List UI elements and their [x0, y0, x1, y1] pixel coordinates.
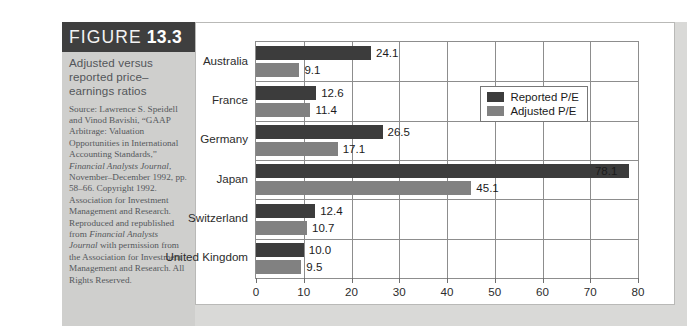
x-axis-tick-label: 0	[253, 285, 259, 298]
bar	[256, 164, 629, 178]
category-label: Germany	[200, 132, 256, 145]
x-gridline	[399, 42, 400, 278]
x-axis-tick	[352, 278, 353, 283]
x-axis-tick	[399, 278, 400, 283]
bar	[256, 243, 304, 257]
bar-value-label: 9.1	[304, 64, 320, 76]
x-gridline	[304, 42, 305, 278]
source-text-part-2: , November–December 1992, pp. 58–66. Cop…	[69, 161, 187, 239]
figure-title: Adjusted versus reported price–earnings …	[69, 56, 187, 99]
legend-swatch-icon	[487, 92, 504, 102]
bar-value-label: 24.1	[376, 47, 398, 59]
bar	[256, 181, 471, 195]
x-axis-tick	[543, 278, 544, 283]
legend-label: Adjusted P/E	[510, 105, 576, 117]
category-label: United Kingdom	[166, 250, 257, 263]
source-journal-1: Financial Analysts Journal	[69, 161, 169, 171]
x-axis-tick	[590, 278, 591, 283]
x-axis-tick-label: 60	[536, 285, 549, 298]
figure-caption-column: Adjusted versus reported price–earnings …	[62, 52, 195, 326]
category-label: France	[212, 93, 256, 106]
x-axis-tick-label: 80	[632, 285, 645, 298]
category-label: Japan	[216, 172, 256, 185]
bar-value-label: 9.5	[306, 261, 322, 273]
chart-legend: Reported P/EAdjusted P/E	[480, 86, 587, 122]
plot-inner: 01020304050607080Australia24.19.1France1…	[256, 42, 638, 278]
source-text-part-1: Source: Lawrence S. Speidell and Vinod B…	[69, 104, 178, 160]
figure-number-header: FIGURE 13.3	[62, 22, 195, 52]
x-axis-tick	[447, 278, 448, 283]
bar-value-label: 12.4	[320, 205, 342, 217]
bar-value-label: 10.0	[309, 244, 331, 256]
bar-value-label: 45.1	[476, 182, 498, 194]
bar	[256, 125, 383, 139]
x-gridline	[543, 42, 544, 278]
bar	[256, 46, 371, 60]
page-top-margin	[0, 0, 687, 22]
bar	[256, 86, 316, 100]
legend-label: Reported P/E	[510, 91, 578, 103]
bar	[256, 204, 315, 218]
bar	[256, 260, 301, 274]
x-axis-tick-label: 70	[584, 285, 597, 298]
x-axis-tick-label: 30	[393, 285, 406, 298]
x-gridline	[495, 42, 496, 278]
plot-area: 01020304050607080Australia24.19.1France1…	[255, 41, 639, 279]
x-axis-tick-label: 50	[488, 285, 501, 298]
x-axis-tick	[256, 278, 257, 283]
bar-value-label: 12.6	[321, 87, 343, 99]
x-axis-tick	[304, 278, 305, 283]
chart-panel: 01020304050607080Australia24.19.1France1…	[195, 22, 675, 305]
bar	[256, 63, 299, 77]
x-axis-tick	[638, 278, 639, 283]
bar	[256, 221, 307, 235]
x-axis-tick-label: 20	[345, 285, 358, 298]
bar-value-label: 11.4	[315, 104, 337, 116]
x-gridline	[352, 42, 353, 278]
figure-page: FIGURE 13.3 Adjusted versus reported pri…	[0, 0, 687, 326]
figure-number: 13.3	[142, 27, 182, 48]
bar	[256, 103, 310, 117]
bar-value-label: 10.7	[312, 222, 334, 234]
x-axis-tick	[495, 278, 496, 283]
bar	[256, 142, 338, 156]
category-label: Switzerland	[188, 211, 256, 224]
x-axis-tick-label: 40	[441, 285, 454, 298]
bar-value-label: 17.1	[343, 143, 365, 155]
x-axis-tick-label: 10	[297, 285, 310, 298]
category-label: Australia	[203, 54, 256, 67]
bar-value-label: 26.5	[388, 126, 410, 138]
figure-label: FIGURE	[62, 27, 142, 48]
legend-item[interactable]: Reported P/E	[487, 91, 578, 103]
bar-value-label: 78.1	[595, 165, 617, 177]
legend-item[interactable]: Adjusted P/E	[487, 105, 578, 117]
x-gridline	[447, 42, 448, 278]
x-gridline	[590, 42, 591, 278]
legend-swatch-icon	[487, 106, 504, 116]
page-left-margin	[0, 0, 62, 326]
